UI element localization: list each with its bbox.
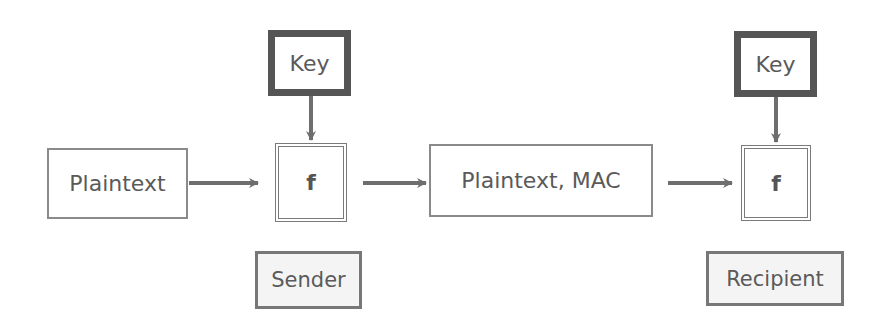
sender-key-box: Key xyxy=(268,30,351,96)
sender-f-box: f xyxy=(275,143,347,222)
recipient-label-box: Recipient xyxy=(706,251,844,306)
recipient-f-label: f xyxy=(771,171,781,196)
sender-key-label: Key xyxy=(290,51,330,76)
recipient-key-label: Key xyxy=(756,52,796,77)
sender-label: Sender xyxy=(271,268,345,292)
sender-label-box: Sender xyxy=(255,251,362,309)
plaintext-mac-label: Plaintext, MAC xyxy=(461,168,620,193)
plaintext-label: Plaintext xyxy=(69,171,165,196)
recipient-label: Recipient xyxy=(726,267,824,291)
plaintext-box: Plaintext xyxy=(47,148,188,219)
plaintext-mac-box: Plaintext, MAC xyxy=(429,144,653,217)
sender-f-label: f xyxy=(306,170,316,195)
recipient-f-box: f xyxy=(741,145,811,221)
recipient-key-box: Key xyxy=(734,31,817,97)
